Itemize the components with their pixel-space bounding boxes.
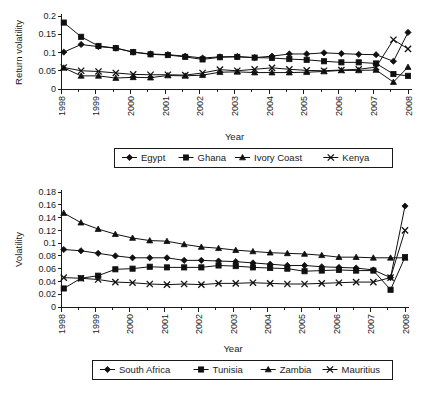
marker-diamond <box>338 50 344 56</box>
legend-label: Egypt <box>141 152 166 163</box>
marker-square <box>216 263 221 268</box>
marker-cross <box>402 227 408 233</box>
marker-triangle <box>78 220 84 225</box>
marker-square <box>302 269 307 274</box>
y-tick-label: 0.2 <box>43 11 56 21</box>
x-tick-label: 2007 <box>369 96 379 116</box>
marker-square <box>388 287 393 292</box>
marker-square <box>339 60 344 65</box>
x-tick-label: 2000 <box>125 314 135 334</box>
legend-label: Tunisia <box>213 364 244 375</box>
y-tick-label: 0.08 <box>38 251 56 261</box>
x-tick-label: 2004 <box>265 96 275 116</box>
legend-label: Kenya <box>342 152 370 163</box>
axes-group: 00.020.040.060.080.10.120.140.160.181998… <box>38 187 410 334</box>
x-axis-title: Year <box>223 343 242 354</box>
marker-diamond <box>304 51 310 57</box>
marker-square <box>113 267 118 272</box>
x-tick-label: 2005 <box>299 96 309 116</box>
marker-square <box>183 155 188 160</box>
marker-triangle <box>61 210 67 215</box>
marker-square <box>199 265 204 270</box>
marker-cross <box>405 46 411 52</box>
marker-square <box>164 265 169 270</box>
marker-diamond <box>164 255 170 261</box>
legend: EgyptGhanaIvory CoastKenya <box>114 148 392 167</box>
x-tick-label: 1999 <box>91 96 101 116</box>
x-tick-label: 1999 <box>91 314 101 334</box>
legend-label: South Africa <box>119 364 171 375</box>
marker-square <box>183 54 188 59</box>
marker-diamond <box>147 255 153 261</box>
marker-diamond <box>321 50 327 56</box>
y-tick-label: 0.05 <box>38 66 56 76</box>
x-tick-label: 1998 <box>57 314 67 334</box>
marker-square <box>61 20 66 25</box>
marker-diamond <box>181 257 187 263</box>
marker-square <box>269 55 274 60</box>
marker-square <box>287 56 292 61</box>
x-tick-label: 1998 <box>57 96 67 116</box>
y-tick-label: 0.16 <box>38 200 56 210</box>
marker-diamond <box>390 58 396 64</box>
y-tick-label: 0 <box>51 84 56 94</box>
x-tick-label: 2006 <box>334 96 344 116</box>
marker-diamond <box>405 29 411 35</box>
marker-diamond <box>402 203 408 209</box>
marker-diamond <box>112 253 118 259</box>
y-tick-label: 0.18 <box>38 187 56 197</box>
chart-panel-top: 00.050.10.150.21998199920002001200220032… <box>0 0 425 172</box>
marker-square <box>252 55 257 60</box>
marker-square <box>268 265 273 270</box>
x-tick-label: 2005 <box>297 314 307 334</box>
x-axis-title: Year <box>225 131 244 142</box>
marker-square <box>356 60 361 65</box>
marker-square <box>235 54 240 59</box>
marker-cross <box>390 37 396 43</box>
marker-square <box>405 73 410 78</box>
marker-diamond <box>95 250 101 256</box>
x-tick-label: 2003 <box>230 96 240 116</box>
marker-square <box>354 268 359 273</box>
legend-label: Ivory Coast <box>254 152 302 163</box>
y-tick-label: 0.14 <box>38 213 56 223</box>
x-tick-label: 2007 <box>366 314 376 334</box>
marker-square <box>321 59 326 64</box>
x-tick-label: 2004 <box>263 314 273 334</box>
series-group <box>61 20 411 84</box>
marker-square <box>250 265 255 270</box>
marker-square <box>79 34 84 39</box>
figure-root: 00.050.10.150.21998199920002001200220032… <box>0 0 425 399</box>
x-tick-label: 2002 <box>194 314 204 334</box>
marker-square <box>165 52 170 57</box>
y-axis-title: Return volatility <box>13 20 24 85</box>
marker-square <box>233 264 238 269</box>
legend-label: Mauritius <box>342 364 381 375</box>
y-axis-title: Volatility <box>13 232 24 267</box>
line-chart-top: 00.050.10.150.21998199920002001200220032… <box>0 0 425 172</box>
marker-diamond <box>301 262 307 268</box>
series-ivory-coast <box>61 64 411 84</box>
marker-square <box>391 71 396 76</box>
marker-square <box>131 50 136 55</box>
legend: South AfricaTunisiaZambiaMauritius <box>92 360 392 379</box>
x-tick-label: 2000 <box>126 96 136 116</box>
marker-square <box>371 268 376 273</box>
line-chart-bottom: 00.020.040.060.080.10.120.140.160.181998… <box>0 180 425 399</box>
x-tick-label: 2003 <box>229 314 239 334</box>
marker-triangle <box>405 64 411 69</box>
marker-square <box>319 268 324 273</box>
marker-square <box>113 46 118 51</box>
marker-square <box>200 57 205 62</box>
marker-diamond <box>198 257 204 263</box>
x-tick-label: 2001 <box>161 96 171 116</box>
marker-square <box>304 57 309 62</box>
series-group <box>61 203 408 292</box>
marker-diamond <box>373 52 379 58</box>
marker-square <box>217 55 222 60</box>
series-zambia <box>61 210 408 260</box>
y-tick-label: 0.12 <box>38 226 56 236</box>
marker-diamond <box>129 255 135 261</box>
y-tick-label: 0.04 <box>38 277 56 287</box>
x-tick-label: 2008 <box>404 96 414 116</box>
